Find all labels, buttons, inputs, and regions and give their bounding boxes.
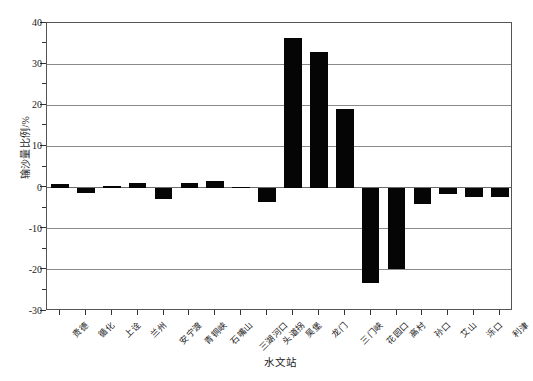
y-tick-label: 40 xyxy=(2,17,42,28)
x-tick xyxy=(137,310,138,315)
x-category-label: 高村 xyxy=(406,318,428,340)
gridline--20 xyxy=(47,269,511,270)
x-tick xyxy=(266,310,267,315)
bar xyxy=(414,188,432,204)
bar xyxy=(51,184,69,187)
y-minor-tick xyxy=(42,42,46,43)
y-tick-label: 30 xyxy=(2,58,42,69)
gridline-20 xyxy=(47,105,511,106)
x-category-label: 吴堡 xyxy=(302,318,324,340)
x-tick xyxy=(447,310,448,315)
y-minor-tick xyxy=(42,248,46,249)
y-tick-label: 20 xyxy=(2,99,42,110)
x-category-label: 上诠 xyxy=(121,318,143,340)
x-tick xyxy=(318,310,319,315)
bar xyxy=(491,188,509,197)
y-minor-tick xyxy=(42,289,46,290)
gridline--10 xyxy=(47,228,511,229)
x-tick xyxy=(292,310,293,315)
bar xyxy=(336,109,354,188)
y-tick-label: 10 xyxy=(2,140,42,151)
x-tick xyxy=(473,310,474,315)
x-tick xyxy=(59,310,60,315)
x-tick xyxy=(421,310,422,315)
x-tick xyxy=(396,310,397,315)
bar xyxy=(310,52,328,187)
x-category-label: 龙门 xyxy=(328,318,350,340)
plot-area xyxy=(46,22,512,310)
y-minor-tick xyxy=(42,124,46,125)
bar xyxy=(465,188,483,198)
y-tick-label: -30 xyxy=(2,305,42,316)
x-category-label: 青铜峡 xyxy=(201,318,229,346)
x-tick xyxy=(85,310,86,315)
x-tick xyxy=(240,310,241,315)
x-tick xyxy=(214,310,215,315)
bar xyxy=(181,183,199,187)
x-category-label: 三门峡 xyxy=(357,318,385,346)
y-minor-tick xyxy=(42,166,46,167)
x-axis-title: 水文站 xyxy=(0,354,533,369)
x-category-label: 兰州 xyxy=(147,318,169,340)
x-category-label: 贵德 xyxy=(69,318,91,340)
bar xyxy=(155,188,173,200)
x-tick xyxy=(163,310,164,315)
bar xyxy=(103,186,121,188)
bar xyxy=(388,188,406,269)
x-tick xyxy=(188,310,189,315)
x-category-label: 利津 xyxy=(509,318,531,340)
y-tick-label: -10 xyxy=(2,222,42,233)
bar xyxy=(232,187,250,188)
y-minor-tick xyxy=(42,83,46,84)
bar xyxy=(77,188,95,194)
y-tick-label: -20 xyxy=(2,263,42,274)
gridline-30 xyxy=(47,64,511,65)
x-category-label: 孙口 xyxy=(432,318,454,340)
x-category-label: 安宁渡 xyxy=(176,318,204,346)
y-minor-tick xyxy=(42,207,46,208)
gridline-10 xyxy=(47,146,511,147)
x-tick xyxy=(344,310,345,315)
x-category-label: 石嘴山 xyxy=(227,318,255,346)
y-tick-label: 0 xyxy=(2,181,42,192)
x-category-label: 循化 xyxy=(95,318,117,340)
bar xyxy=(258,188,276,202)
bar xyxy=(206,181,224,188)
x-tick xyxy=(370,310,371,315)
bar xyxy=(129,183,147,187)
x-tick xyxy=(499,310,500,315)
x-category-label: 艾山 xyxy=(458,318,480,340)
bar xyxy=(284,38,302,187)
x-tick xyxy=(111,310,112,315)
x-category-label: 泺口 xyxy=(484,318,506,340)
bar xyxy=(439,188,457,195)
bar xyxy=(362,188,380,283)
